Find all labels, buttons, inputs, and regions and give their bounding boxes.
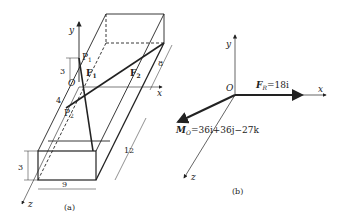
x-label-a: x (157, 88, 162, 98)
box-front-face (38, 151, 96, 180)
z-label-b: z (190, 172, 196, 182)
point-p2-label: P2 (64, 108, 74, 119)
dim-label-9: 9 (62, 180, 67, 189)
caption-b: (b) (232, 187, 243, 196)
origin-label-b: O (226, 83, 234, 93)
dim-label-8: 8 (158, 59, 163, 68)
resultant-force-label: FR=18i (255, 80, 289, 91)
dim-label-4: 4 (56, 96, 61, 105)
box-right-edge-2 (96, 43, 164, 180)
y-label-b: y (225, 39, 232, 49)
dim-label-3-upper: 3 (60, 67, 65, 76)
point-p1-label: P1 (82, 52, 92, 63)
origin-label-a: O (68, 78, 76, 88)
dim-label-3-lower: 3 (18, 163, 23, 172)
caption-a: (a) (64, 203, 75, 212)
figure-b (178, 35, 326, 178)
force-f1-label: F1 (86, 68, 97, 79)
force-f2-line (66, 43, 164, 108)
figure-a (22, 14, 172, 204)
z-label-a: z (27, 199, 33, 209)
diagram-canvas: y x z O P1 F1 F2 P2 3 4 3 9 12 8 (a) y x… (0, 0, 341, 213)
moment-label: MO=36i+36j−27k (175, 125, 260, 136)
y-label-a: y (68, 25, 75, 35)
dim-label-12: 12 (124, 146, 134, 155)
force-f2-label: F2 (130, 68, 141, 79)
box-top-back (106, 14, 164, 43)
x-label-b: x (318, 84, 323, 94)
